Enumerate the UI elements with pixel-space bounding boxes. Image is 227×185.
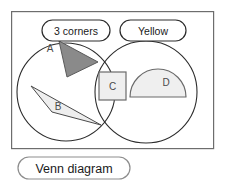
venn-diagram-canvas: B A D C 3 corners Yellow Venn diagram xyxy=(0,0,227,185)
shape-a-label: A xyxy=(47,43,54,54)
shape-d-label: D xyxy=(162,77,169,88)
shape-c-label: C xyxy=(109,81,116,92)
caption-text: Venn diagram xyxy=(35,162,112,176)
set-label-right-text: Yellow xyxy=(138,25,168,37)
shape-b-label: B xyxy=(55,101,62,112)
set-label-left-text: 3 corners xyxy=(54,25,98,37)
venn-diagram-figure: B A D C 3 corners Yellow Venn diagram xyxy=(0,0,227,185)
